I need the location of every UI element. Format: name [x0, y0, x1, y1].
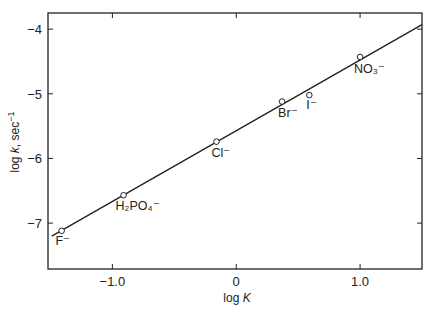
- y-tick-label: −5: [27, 87, 42, 102]
- y-tick-label: −7: [27, 216, 42, 231]
- x-tick-label: −1.0: [100, 274, 126, 289]
- data-point-marker: [214, 139, 220, 145]
- data-point-label: Cl⁻: [211, 146, 230, 160]
- fit-line: [52, 25, 422, 236]
- data-point-label: F⁻: [56, 234, 71, 248]
- data-points: F⁻H₂PO₄⁻Cl⁻Br⁻I⁻NO₃⁻: [56, 54, 385, 248]
- chart: −1.001.0−4−5−6−7 F⁻H₂PO₄⁻Cl⁻Br⁻I⁻NO₃⁻ lo…: [0, 0, 433, 310]
- y-tick-label: −6: [27, 151, 42, 166]
- regression-line: [52, 25, 422, 236]
- plot-border: [48, 13, 422, 269]
- data-point-marker: [121, 193, 127, 199]
- x-tick-label: 1.0: [351, 274, 369, 289]
- data-point-label: H₂PO₄⁻: [116, 199, 160, 213]
- data-point-marker: [307, 92, 313, 98]
- data-point-marker: [59, 228, 65, 234]
- x-axis-title: log K: [223, 291, 251, 305]
- y-axis-title: log k, sec−1: [6, 112, 22, 173]
- y-tick-label: −4: [27, 22, 42, 37]
- plot-frame: [48, 13, 422, 269]
- data-point-label: Br⁻: [278, 106, 298, 120]
- data-point-label: I⁻: [306, 98, 316, 112]
- x-tick-label: 0: [233, 274, 240, 289]
- data-point-label: NO₃⁻: [354, 62, 385, 76]
- data-point-marker: [357, 54, 363, 60]
- data-point-marker: [279, 99, 285, 105]
